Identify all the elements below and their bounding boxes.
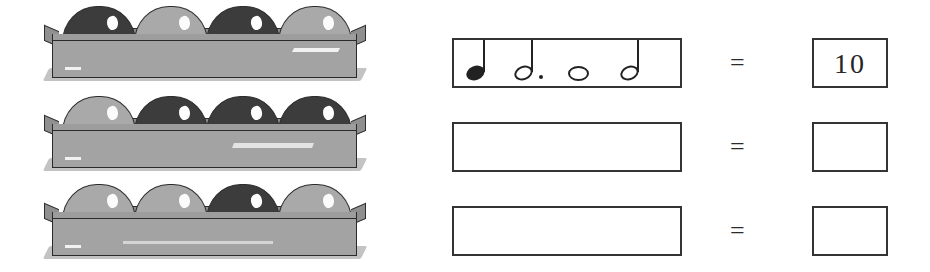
note-stem <box>531 40 533 72</box>
egg-carton-illustration-3 <box>52 182 372 266</box>
egg-highlight <box>322 193 336 209</box>
carton-sheen <box>292 48 340 52</box>
carton-sheen <box>65 245 81 248</box>
egg-carton-illustration-2 <box>52 94 372 178</box>
worksheet-canvas: = 10 = = <box>0 0 930 272</box>
answer-box-2[interactable] <box>812 122 888 172</box>
carton-front-panel <box>52 130 357 168</box>
carton-sheen <box>123 241 273 244</box>
answer-box-3[interactable] <box>812 206 888 256</box>
carton-front-panel <box>52 218 357 256</box>
answer-box-1[interactable]: 10 <box>812 38 888 88</box>
carton-front-panel <box>52 40 357 78</box>
egg-highlight <box>106 105 120 121</box>
dotted-half-note-icon <box>512 46 558 86</box>
note-stem <box>483 40 485 72</box>
augmentation-dot <box>539 75 543 79</box>
rhythm-box-1[interactable] <box>452 38 682 88</box>
carton-sheen <box>232 143 314 148</box>
egg-highlight <box>250 105 264 121</box>
egg-highlight <box>250 15 264 31</box>
note-head <box>568 66 589 81</box>
egg-highlight <box>178 105 192 121</box>
equation-row-2: = <box>452 122 902 174</box>
carton-sheen <box>65 67 81 70</box>
egg-highlight <box>250 193 264 209</box>
equals-sign: = <box>730 216 745 246</box>
egg-highlight <box>178 193 192 209</box>
egg-highlight <box>178 15 192 31</box>
egg-highlight <box>106 193 120 209</box>
rhythm-box-2[interactable] <box>452 122 682 172</box>
equation-row-1: = 10 <box>452 38 902 90</box>
egg-highlight <box>106 15 120 31</box>
whole-note-icon <box>566 46 612 86</box>
rhythm-box-3[interactable] <box>452 206 682 256</box>
carton-sheen <box>65 157 81 160</box>
answer-value: 10 <box>814 40 886 88</box>
equals-sign: = <box>730 48 745 78</box>
egg-highlight <box>322 105 336 121</box>
equals-sign: = <box>730 132 745 162</box>
egg-highlight <box>322 15 336 31</box>
egg-carton-illustration-1 <box>52 4 372 88</box>
equation-row-3: = <box>452 206 902 258</box>
half-note-icon <box>618 46 664 86</box>
note-stem <box>637 40 639 72</box>
quarter-note-icon <box>464 46 510 86</box>
